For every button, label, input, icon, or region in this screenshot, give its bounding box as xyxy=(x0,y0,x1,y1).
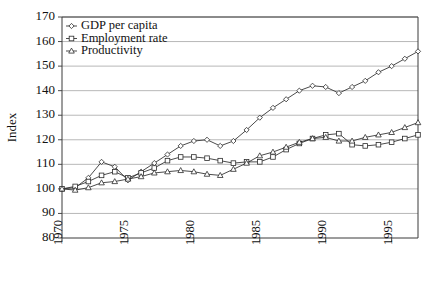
data-point-marker xyxy=(152,161,157,166)
data-point-marker xyxy=(178,168,184,173)
data-point-marker xyxy=(415,120,421,125)
series-productivity xyxy=(59,120,421,193)
data-point-marker xyxy=(363,144,368,149)
data-point-marker xyxy=(389,64,394,69)
data-point-marker xyxy=(191,138,196,143)
data-point-marker xyxy=(112,169,117,174)
data-point-marker xyxy=(284,97,289,102)
data-point-marker xyxy=(403,136,408,141)
data-point-marker xyxy=(218,158,223,163)
y-axis-title: Index xyxy=(4,112,19,142)
data-point-marker xyxy=(178,155,183,160)
legend-marker-icon xyxy=(69,23,74,28)
x-tick-label: 1985 xyxy=(249,220,263,245)
y-tick-label: 100 xyxy=(36,180,56,195)
data-point-marker xyxy=(271,155,276,160)
legend: GDP per capitaEmployment rateProductivit… xyxy=(66,18,168,57)
data-point-marker xyxy=(99,173,104,178)
data-point-marker xyxy=(416,133,421,138)
data-point-marker xyxy=(218,143,223,148)
data-point-marker xyxy=(204,137,209,142)
y-tick-label: 140 xyxy=(36,82,56,97)
y-tick-label: 90 xyxy=(42,204,55,219)
data-point-marker xyxy=(192,155,197,160)
data-point-marker xyxy=(310,83,315,88)
x-tick-label: 1970 xyxy=(51,220,65,245)
legend-label: Productivity xyxy=(81,43,144,57)
chart-canvas: 8090100110120130140150160170197019751980… xyxy=(0,0,431,285)
legend-marker-icon xyxy=(69,36,74,41)
x-tick-label: 1990 xyxy=(315,220,329,245)
x-tick-label: 1995 xyxy=(381,220,395,245)
data-point-marker xyxy=(297,88,302,93)
data-point-marker xyxy=(376,142,381,147)
data-point-marker xyxy=(349,84,354,89)
data-point-marker xyxy=(205,156,210,161)
data-point-marker xyxy=(415,49,420,54)
data-point-marker xyxy=(402,56,407,61)
y-tick-label: 110 xyxy=(36,155,55,170)
data-point-marker xyxy=(231,166,237,171)
data-point-marker xyxy=(231,161,236,166)
data-point-marker xyxy=(86,179,91,184)
x-tick-label: 1980 xyxy=(183,220,197,245)
data-point-marker xyxy=(363,78,368,83)
y-tick-label: 150 xyxy=(36,57,56,72)
data-point-marker xyxy=(165,158,170,163)
data-point-marker xyxy=(178,143,183,148)
x-tick-label: 1975 xyxy=(117,220,131,245)
y-tick-label: 160 xyxy=(36,33,56,48)
line-chart: 8090100110120130140150160170197019751980… xyxy=(0,0,431,285)
y-tick-label: 120 xyxy=(36,131,56,146)
y-tick-label: 130 xyxy=(36,106,56,121)
data-point-marker xyxy=(376,70,381,75)
data-point-marker xyxy=(257,160,262,165)
data-point-marker xyxy=(389,140,394,145)
data-point-marker xyxy=(337,131,342,136)
data-point-marker xyxy=(165,152,170,157)
legend-item[interactable]: Productivity xyxy=(66,43,144,57)
data-point-marker xyxy=(323,84,328,89)
y-tick-label: 170 xyxy=(36,8,56,23)
data-point-marker xyxy=(336,91,341,96)
